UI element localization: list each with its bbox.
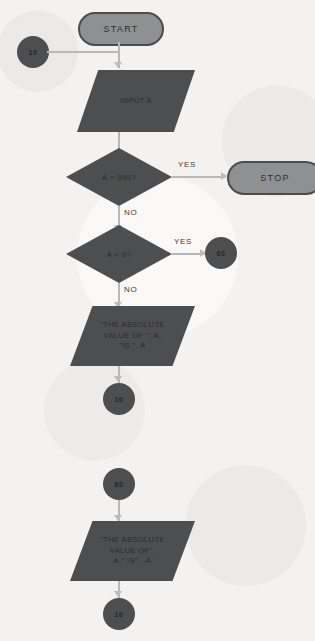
flowchart-canvas: START 10 INPUT A A = 999? YES STOP NO A …: [0, 0, 315, 641]
node-decision-less-than-zero[interactable]: A < 0?: [66, 225, 172, 283]
node-stop-label: STOP: [260, 173, 290, 183]
node-decision-less-than-zero-label: A < 0?: [107, 250, 131, 259]
node-connector-10-bottom[interactable]: 10: [103, 598, 135, 630]
edge-decision999-yes: [172, 176, 226, 178]
arrowhead-printpos-to-connector10: [114, 376, 122, 382]
edge-label-no-999: NO: [124, 208, 137, 217]
node-connector-60-right-label: 60: [217, 250, 226, 257]
arrowhead-start-to-input: [114, 62, 122, 68]
node-input-a-label: INPUT A: [120, 96, 152, 107]
node-connector-60-bottom[interactable]: 60: [103, 468, 135, 500]
node-connector-10-top[interactable]: 10: [17, 36, 49, 68]
node-decision-equals-999-label: A = 999?: [102, 173, 136, 182]
arrowhead-printneg-to-connector10: [114, 591, 122, 597]
node-start[interactable]: START: [78, 12, 164, 46]
edge-label-yes-negative: YES: [174, 237, 192, 246]
node-connector-60-bottom-label: 60: [115, 481, 124, 488]
node-start-label: START: [103, 24, 138, 34]
arrowhead-connector60-to-printneg: [114, 515, 122, 521]
node-connector-10-top-label: 10: [29, 49, 38, 56]
node-connector-60-right[interactable]: 60: [205, 237, 237, 269]
node-print-negative[interactable]: "THE ABSOLUTE VALUE OF", A," IS", -A: [70, 521, 195, 581]
node-connector-10-mid-label: 10: [115, 396, 124, 403]
node-print-positive-label: "THE ABSOLUTE VALUE OF ", A, "IS ", A: [100, 320, 165, 353]
edge-label-yes-999: YES: [178, 160, 196, 169]
node-print-positive[interactable]: "THE ABSOLUTE VALUE OF ", A, "IS ", A: [70, 306, 195, 366]
node-stop[interactable]: STOP: [227, 161, 315, 195]
edge-connector10-to-input: [47, 51, 119, 53]
edge-label-no-negative: NO: [124, 285, 137, 294]
node-connector-10-mid[interactable]: 10: [103, 383, 135, 415]
node-input-a[interactable]: INPUT A: [77, 70, 195, 132]
node-decision-equals-999[interactable]: A = 999?: [66, 148, 172, 206]
node-connector-10-bottom-label: 10: [115, 611, 124, 618]
node-print-negative-label: "THE ABSOLUTE VALUE OF", A," IS", -A: [100, 535, 165, 568]
